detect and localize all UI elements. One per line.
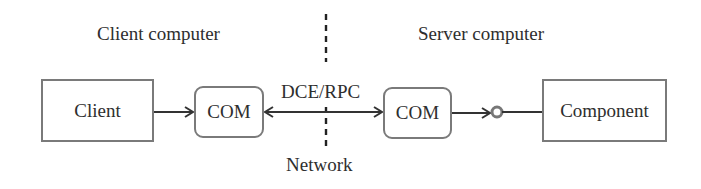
- dce-rpc-label: DCE/RPC: [281, 82, 360, 101]
- dce-rpc-bidirectional-arrow: [265, 107, 382, 117]
- com-to-interface-arrow: [451, 108, 490, 118]
- com-dcom-diagram: Client computer Server computer: [0, 0, 701, 189]
- client-box: Client: [41, 79, 154, 142]
- client-com-box: COM: [194, 86, 264, 138]
- server-com-box: COM: [383, 87, 452, 139]
- interface-lollipop-icon: [492, 107, 542, 117]
- component-box: Component: [542, 79, 667, 142]
- network-label: Network: [286, 155, 352, 174]
- client-to-com-arrow: [153, 107, 193, 117]
